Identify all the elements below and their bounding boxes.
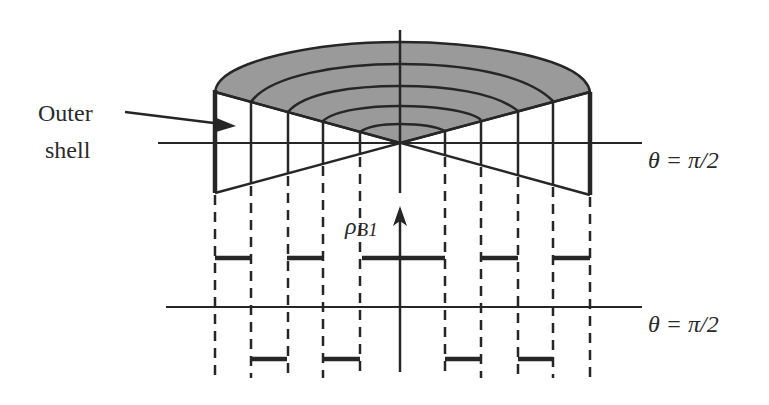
dashed-projection-lines xyxy=(215,157,590,378)
shaded-cone-surface xyxy=(215,42,590,143)
outer-shell-pointer xyxy=(125,112,222,124)
outer-shell-label-line1: Outer xyxy=(38,100,93,126)
rho-subscript: B1 xyxy=(357,219,378,240)
outer-shell-label-line2: shell xyxy=(45,137,91,163)
theta-upper-label: θ = π/2 xyxy=(648,147,719,173)
rho-symbol: ρ xyxy=(344,213,357,239)
theta-lower-label: θ = π/2 xyxy=(648,311,719,337)
outer-shell-pointer-arrowhead-icon xyxy=(214,117,236,132)
outer-shell-diagram: Outer shell θ = π/2 θ = π/2 ρB1 xyxy=(0,0,769,405)
